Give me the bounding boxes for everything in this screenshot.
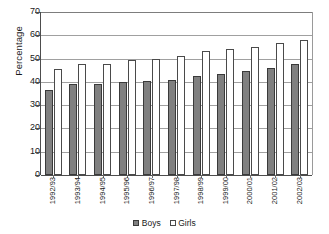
bar-girls-1994-95 <box>103 64 111 175</box>
bar-group <box>263 12 288 175</box>
bar-groups <box>41 12 312 175</box>
bar-group <box>238 12 263 175</box>
x-tick-slot: 1992/93 <box>41 175 66 215</box>
x-tick-label-2000-01: 2000/01 <box>246 177 254 204</box>
bar-girls-2000-01 <box>251 47 259 175</box>
legend-label: Girls <box>178 218 195 228</box>
chart-legend: BoysGirls <box>0 216 329 230</box>
bar-group <box>66 12 91 175</box>
bar-girls-1996-97 <box>152 59 160 175</box>
x-tick-label-1997-98: 1997/98 <box>173 177 181 204</box>
bar-girls-1997-98 <box>177 56 185 175</box>
bar-girls-1998-99 <box>202 51 210 175</box>
bar-boys-1998-99 <box>193 76 201 175</box>
bar-group <box>287 12 312 175</box>
bar-group <box>213 12 238 175</box>
bar-group <box>90 12 115 175</box>
x-tick-slot: 1997/98 <box>164 175 189 215</box>
bar-boys-1992-93 <box>45 90 53 175</box>
x-tick-slot: 1998/99 <box>189 175 214 215</box>
bar-group <box>164 12 189 175</box>
x-tick-label-1995-96: 1995/96 <box>123 177 131 204</box>
bar-girls-2002-03 <box>300 40 308 175</box>
legend-swatch-outlined-white-square <box>170 220 176 226</box>
legend-label: Boys <box>142 218 161 228</box>
legend-item-boys[interactable]: Boys <box>133 218 160 228</box>
bar-group <box>115 12 140 175</box>
x-tick-label-2002-03: 2002/03 <box>296 177 304 204</box>
bar-girls-1993-94 <box>78 64 86 175</box>
bar-boys-1997-98 <box>168 80 176 175</box>
bar-girls-1999-00 <box>226 49 234 175</box>
x-tick-label-1992-93: 1992/93 <box>49 177 57 204</box>
bar-boys-1993-94 <box>69 84 77 175</box>
bar-boys-2002-03 <box>291 64 299 175</box>
x-tick-label-1993-94: 1993/94 <box>74 177 82 204</box>
y-axis-tick-group: 706050403020100 <box>0 0 40 175</box>
x-tick-slot: 1994/95 <box>90 175 115 215</box>
x-tick-slot: 2000/01 <box>238 175 263 215</box>
x-tick-label-1994-95: 1994/95 <box>99 177 107 204</box>
x-axis-tick-labels: 1992/931993/941994/951995/961996/971997/… <box>41 175 312 215</box>
bar-boys-2000-01 <box>242 71 250 175</box>
bar-boys-1994-95 <box>94 84 102 175</box>
y-tick-mark-0 <box>35 175 40 176</box>
bar-girls-2001-02 <box>276 43 284 175</box>
bar-girls-1995-96 <box>128 60 136 175</box>
bar-group <box>140 12 165 175</box>
x-tick-label-1999-00: 1999/00 <box>222 177 230 204</box>
x-tick-slot: 1995/96 <box>115 175 140 215</box>
x-tick-slot: 1999/00 <box>213 175 238 215</box>
bar-boys-1995-96 <box>119 82 127 175</box>
x-tick-label-1998-99: 1998/99 <box>197 177 205 204</box>
bar-chart: Percentage 706050403020100 1992/931993/9… <box>0 0 329 234</box>
x-tick-slot: 2001/02 <box>263 175 288 215</box>
bar-group <box>41 12 66 175</box>
x-tick-label-2001-02: 2001/02 <box>271 177 279 204</box>
legend-swatch-filled-gray-square <box>133 220 139 226</box>
x-tick-label-1996-97: 1996/97 <box>148 177 156 204</box>
bar-boys-1996-97 <box>143 81 151 175</box>
bar-boys-1999-00 <box>217 74 225 175</box>
x-tick-slot: 1996/97 <box>140 175 165 215</box>
x-tick-slot: 2002/03 <box>287 175 312 215</box>
bar-group <box>189 12 214 175</box>
bar-boys-2001-02 <box>267 68 275 175</box>
legend-item-girls[interactable]: Girls <box>170 218 196 228</box>
bar-girls-1992-93 <box>54 69 62 175</box>
x-tick-slot: 1993/94 <box>66 175 91 215</box>
